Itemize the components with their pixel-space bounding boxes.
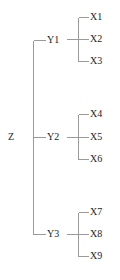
node-label-x5: X5 <box>90 132 102 142</box>
node-label-x3: X3 <box>90 56 102 66</box>
node-label-x9: X9 <box>90 251 102 261</box>
node-label-y1: Y1 <box>47 35 59 45</box>
branch-connector-y2 <box>67 115 89 160</box>
node-label-y3: Y3 <box>47 229 59 239</box>
branch-connector-y3 <box>67 213 89 257</box>
branch-connector-y1 <box>67 18 89 62</box>
tree-diagram: Z Y1 Y2 Y3 X1 X2 X3 X4 X5 X6 X7 X8 X9 <box>0 0 120 280</box>
node-label-x1: X1 <box>90 12 102 22</box>
node-label-x2: X2 <box>90 34 102 44</box>
node-label-x4: X4 <box>90 109 102 119</box>
node-label-x6: X6 <box>90 154 102 164</box>
node-label-root: Z <box>8 132 14 142</box>
node-label-y2: Y2 <box>47 132 59 142</box>
root-connector <box>34 41 46 235</box>
node-label-x7: X7 <box>90 207 102 217</box>
node-label-x8: X8 <box>90 229 102 239</box>
